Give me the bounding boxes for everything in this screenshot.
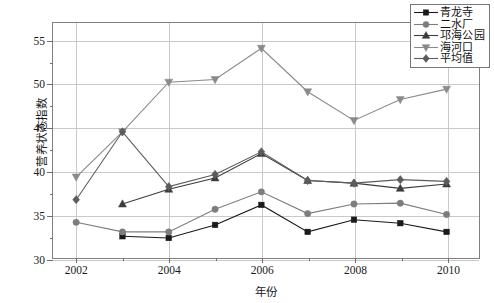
- y-tick-label: 55: [34, 35, 46, 47]
- x-tick-minor: [309, 258, 310, 261]
- x-tick-label: 2006: [251, 264, 274, 276]
- x-tick-label: 2004: [158, 264, 181, 276]
- data-point-marker: [304, 89, 312, 96]
- series-line: [76, 192, 446, 232]
- data-point-marker: [443, 211, 449, 217]
- data-point-marker: [166, 235, 172, 241]
- legend-item-label: 平均值: [440, 53, 474, 65]
- data-point-marker: [166, 229, 172, 235]
- x-tick: [448, 258, 449, 263]
- y-tick: [47, 260, 53, 261]
- legend-item: 青龙寺: [413, 7, 485, 19]
- data-point-marker: [304, 210, 310, 216]
- x-tick-label: 2010: [437, 264, 460, 276]
- x-axis-title: 年份: [255, 283, 278, 299]
- data-point-marker: [212, 206, 218, 212]
- x-tick-minor: [123, 258, 124, 261]
- data-point-marker: [73, 219, 79, 225]
- data-series: [72, 45, 450, 181]
- y-tick-label: 35: [34, 210, 46, 222]
- data-point-marker: [351, 201, 357, 207]
- gridline-horizontal: [53, 260, 479, 261]
- legend-item: 平均值: [413, 53, 485, 65]
- y-tick-label: 45: [34, 122, 46, 134]
- legend-item-label: 邛海公园: [440, 30, 485, 42]
- data-point-marker: [119, 229, 125, 235]
- data-point-marker: [444, 229, 450, 235]
- data-point-marker: [305, 229, 311, 235]
- x-tick: [355, 258, 356, 263]
- data-point-marker: [397, 220, 403, 226]
- legend-marker-icon: [413, 53, 439, 64]
- data-point-marker: [212, 222, 218, 228]
- legend: 青龙寺二水厂邛海公园海河口平均值: [410, 4, 490, 68]
- legend-marker-icon: [413, 30, 439, 41]
- x-tick: [169, 258, 170, 263]
- data-point-marker: [258, 189, 264, 195]
- x-tick-label: 2008: [344, 264, 367, 276]
- legend-item: 邛海公园: [413, 30, 485, 42]
- data-point-marker: [397, 200, 403, 206]
- x-tick-label: 2002: [65, 264, 88, 276]
- data-point-marker: [259, 202, 265, 208]
- legend-item-label: 青龙寺: [440, 7, 474, 19]
- data-point-marker: [397, 176, 404, 184]
- x-tick: [76, 258, 77, 263]
- y-tick-label: 30: [34, 254, 46, 266]
- chart-container: 营养状态指数 年份 303540455055200220042006200820…: [0, 0, 494, 303]
- legend-marker-icon: [413, 19, 439, 30]
- x-tick: [262, 258, 263, 263]
- data-point-marker: [212, 170, 219, 178]
- data-point-marker: [351, 217, 357, 223]
- data-point-marker: [350, 117, 358, 124]
- data-point-marker: [396, 97, 404, 104]
- y-tick-label: 50: [34, 78, 46, 90]
- series-line: [76, 48, 446, 177]
- data-series: [73, 189, 450, 235]
- legend-marker-icon: [413, 7, 439, 18]
- data-point-marker: [72, 174, 80, 181]
- x-tick-minor: [402, 258, 403, 261]
- x-tick-minor: [216, 258, 217, 261]
- y-tick-label: 40: [34, 166, 46, 178]
- legend-marker-icon: [413, 42, 439, 53]
